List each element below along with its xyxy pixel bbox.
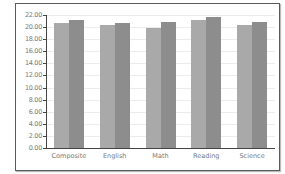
y-tick-label: 2.00: [14, 132, 42, 140]
bar-science-series-1: [237, 25, 252, 148]
plot-area: [46, 15, 275, 148]
x-tick-label: Science: [227, 152, 277, 160]
y-tick-label: 6.00: [14, 108, 42, 116]
y-tick-label: 8.00: [14, 96, 42, 104]
y-tick-label: 16.00: [14, 47, 42, 55]
bar-math-series-1: [146, 28, 161, 148]
bar-math-series-2: [161, 22, 176, 148]
y-tick: [43, 51, 46, 52]
gridline: [46, 15, 275, 16]
y-tick: [43, 148, 46, 149]
y-tick-label: 14.00: [14, 59, 42, 67]
x-tick-label: English: [90, 152, 140, 160]
bar-composite-series-1: [54, 23, 69, 148]
y-tick: [43, 88, 46, 89]
x-axis: [46, 148, 275, 149]
y-tick: [43, 63, 46, 64]
bar-science-series-2: [252, 22, 267, 148]
y-tick-label: 20.00: [14, 23, 42, 31]
bar-reading-series-2: [206, 17, 221, 148]
y-tick: [43, 136, 46, 137]
y-tick: [43, 100, 46, 101]
y-tick: [43, 39, 46, 40]
y-tick-label: 22.00: [14, 11, 42, 19]
x-tick-label: Composite: [44, 152, 94, 160]
bar-composite-series-2: [69, 20, 84, 148]
y-tick-label: 12.00: [14, 71, 42, 79]
y-tick-label: 18.00: [14, 35, 42, 43]
bar-reading-series-1: [191, 20, 206, 148]
y-tick: [43, 15, 46, 16]
y-tick: [43, 124, 46, 125]
y-tick-label: 0.00: [14, 144, 42, 152]
x-tick-label: Math: [136, 152, 186, 160]
bar-english-series-2: [115, 23, 130, 148]
y-tick: [43, 112, 46, 113]
bar-english-series-1: [100, 25, 115, 148]
y-axis: [46, 15, 47, 148]
x-tick-label: Reading: [181, 152, 231, 160]
y-tick-label: 4.00: [14, 120, 42, 128]
y-tick: [43, 75, 46, 76]
y-tick-label: 10.00: [14, 84, 42, 92]
y-tick: [43, 27, 46, 28]
